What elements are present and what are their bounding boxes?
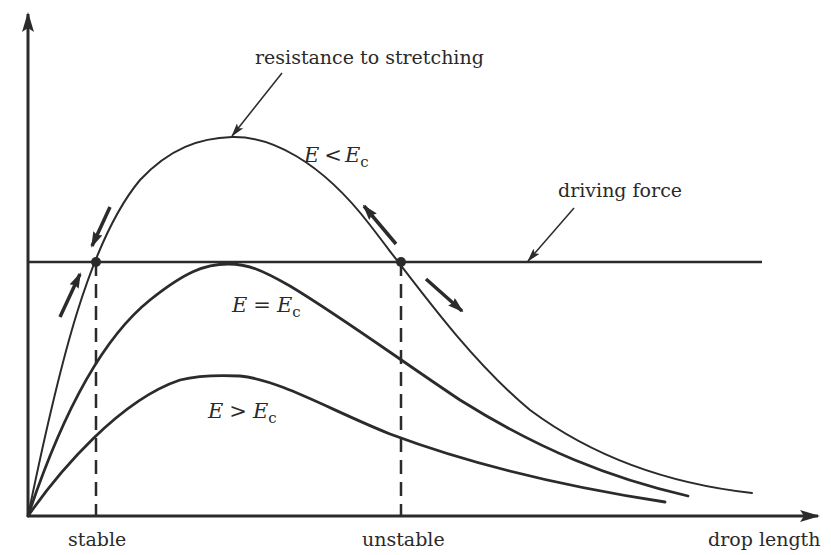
x-axis-label: drop length [708,528,820,550]
x-tick-unstable: unstable [362,528,445,550]
curve-critical [28,264,688,516]
x-tick-stable: stable [68,528,126,550]
unstable-point [396,257,406,267]
label-critical: E=Ec [231,293,301,321]
label-above-critical: E>Ec [207,399,277,427]
driving-force-leader-arrow-icon [528,208,574,261]
stable-arrow-down-icon [92,207,110,246]
resistance-label: resistance to stretching [255,46,484,68]
resistance-leader-arrow-icon [232,73,282,136]
driving-force-label: driving force [558,179,682,201]
curve-above-critical [28,375,665,516]
drop-stretching-diagram: resistance to stretching driving force E… [0,0,831,555]
axes [28,14,818,516]
label-below-critical: E<Ec [303,143,369,171]
stable-point [91,257,101,267]
